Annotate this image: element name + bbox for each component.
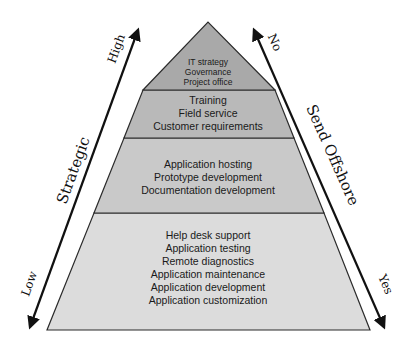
- offshore-pyramid-diagram: IT strategy Governance Project office Tr…: [0, 0, 411, 352]
- tier-2-line: Customer requirements: [153, 120, 263, 132]
- tier-4-line: Help desk support: [166, 229, 251, 241]
- right-axis-top-label: No: [265, 31, 285, 53]
- tier-2-line: Training: [189, 94, 227, 106]
- tier-4-line: Application maintenance: [151, 268, 266, 280]
- tier-1-text: IT strategy Governance Project office: [184, 57, 233, 87]
- tier-4-line: Application testing: [165, 242, 250, 254]
- tier-4-line: Remote diagnostics: [162, 255, 254, 267]
- tier-1-line: Project office: [184, 77, 233, 87]
- tier-1-line: IT strategy: [188, 57, 229, 67]
- tier-1-line: Governance: [185, 67, 232, 77]
- right-axis-bottom-label: Yes: [375, 271, 396, 296]
- tier-3-line: Prototype development: [154, 171, 262, 183]
- tier-4-line: Application development: [151, 281, 265, 293]
- tier-3-line: Documentation development: [141, 184, 275, 196]
- tier-4-line: Application customization: [149, 294, 268, 306]
- left-axis-top-label: High: [105, 32, 128, 65]
- left-axis-bottom-label: Low: [18, 269, 40, 298]
- tier-2-line: Field service: [179, 107, 238, 119]
- tier-3-line: Application hosting: [164, 158, 252, 170]
- tier-4-text: Help desk support Application testing Re…: [149, 229, 268, 306]
